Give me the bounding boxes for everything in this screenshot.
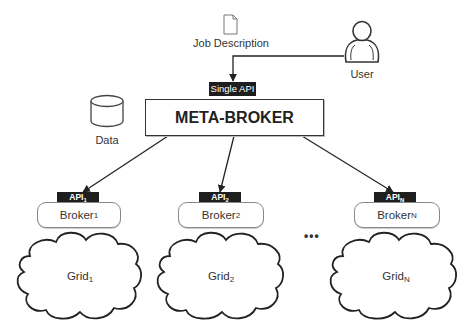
grid-subscript: 2	[230, 275, 234, 284]
meta-broker-label: META-BROKER	[175, 109, 294, 127]
database-icon	[91, 96, 123, 127]
api-tag-1: API1	[57, 192, 99, 202]
broker-label: Broker	[60, 209, 94, 221]
ellipsis: •••	[304, 229, 320, 243]
grid-label: Grid	[67, 270, 89, 282]
edge-meta-to-api-n	[302, 136, 393, 192]
broker-box-1: Broker1	[37, 202, 121, 228]
api-label: API	[386, 192, 400, 202]
broker-label: Broker	[377, 209, 411, 221]
edge-meta-to-api-2	[220, 136, 234, 192]
broker-subscript: 2	[236, 211, 240, 220]
meta-broker-box: META-BROKER	[145, 99, 324, 136]
grid-label-1: Grid1	[55, 270, 105, 284]
user-to-api-edge	[233, 56, 344, 81]
document-icon	[224, 15, 237, 34]
broker-box-n: BrokerN	[354, 202, 440, 228]
grid-label-n: GridN	[370, 270, 422, 284]
user-icon	[345, 22, 378, 63]
single-api-tag: Single API	[209, 82, 256, 96]
user-label: User	[342, 68, 382, 80]
broker-subscript: N	[411, 211, 417, 220]
job-description-label: Job Description	[185, 37, 277, 49]
diagram-canvas	[0, 0, 475, 335]
grid-subscript: 1	[89, 275, 93, 284]
api-tag-2: API2	[199, 192, 241, 202]
api-label: API	[69, 192, 83, 202]
data-label: Data	[87, 134, 127, 146]
broker-box-2: Broker2	[178, 202, 264, 228]
broker-subscript: 1	[94, 211, 98, 220]
grid-label: Grid	[208, 270, 230, 282]
grid-subscript: N	[404, 275, 410, 284]
api-label: API	[211, 192, 225, 202]
grid-label: Grid	[382, 270, 404, 282]
api-tag-n: APIN	[374, 192, 416, 202]
grid-label-2: Grid2	[196, 270, 246, 284]
broker-label: Broker	[202, 209, 236, 221]
